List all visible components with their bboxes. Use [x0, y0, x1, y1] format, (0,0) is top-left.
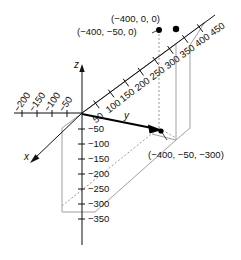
z-tick-minus-50: −50 [88, 124, 104, 134]
coordinate-diagram: z x y −200 −150 −100 −50 −50 −100 −150 −… [0, 0, 241, 260]
z-tick-minus-100: −100 [88, 139, 109, 149]
x-axis-label: x [24, 152, 29, 162]
z-axis [78, 64, 85, 245]
z-tick-minus-250: −250 [88, 184, 109, 194]
z-tick-minus-150: −150 [88, 154, 109, 164]
point-marker-p3[interactable] [158, 128, 163, 133]
y-axis-label: y [124, 111, 129, 121]
point-marker-p2[interactable] [156, 27, 162, 33]
point-label-400-minus50-0: (−400, −50, 0) [77, 27, 137, 37]
z-tick-minus-350: −350 [88, 214, 109, 224]
x-axis [30, 113, 82, 163]
z-tick-minus-300: −300 [88, 199, 109, 209]
z-tick-minus-200: −200 [88, 169, 109, 179]
z-axis-label: z [74, 60, 79, 70]
point-label-400-minus50-minus300: (−400, −50, −300) [148, 150, 224, 160]
point-marker-p1[interactable] [173, 26, 179, 32]
point-label-400-0-0: (−400, 0, 0) [111, 14, 160, 24]
